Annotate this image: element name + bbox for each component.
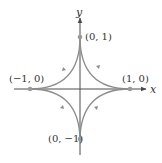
label-point-neg1-0: (−1, 0) — [9, 73, 44, 84]
y-axis-label: y — [75, 6, 83, 19]
x-axis-label: x — [150, 83, 157, 96]
arrow-icon — [96, 65, 100, 69]
arrow-icon — [62, 67, 66, 71]
arrow-icon — [60, 105, 64, 109]
astroid-diagram: y x (0, 1) (1, 0) (−1, 0) (0, −1) — [0, 0, 162, 163]
point-0-1 — [78, 35, 83, 40]
arrow-icon — [94, 106, 98, 110]
point-neg1-0 — [28, 87, 33, 92]
label-point-0-neg1: (0, −1) — [48, 133, 83, 144]
label-point-1-0: (1, 0) — [122, 73, 149, 84]
label-point-0-1: (0, 1) — [85, 31, 112, 42]
point-1-0 — [128, 87, 133, 92]
